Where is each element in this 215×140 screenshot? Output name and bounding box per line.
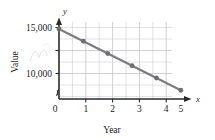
x-axis-title: Year bbox=[103, 125, 121, 135]
x-tick-label-0: 0 bbox=[53, 104, 58, 114]
y-axis-title: Value bbox=[10, 51, 20, 73]
data-point bbox=[130, 63, 135, 68]
x-tick-label-5: 5 bbox=[178, 104, 183, 114]
data-series-value bbox=[57, 27, 184, 93]
data-point bbox=[154, 76, 159, 81]
data-point bbox=[57, 27, 62, 32]
y-axis-variable-label: y bbox=[62, 6, 67, 16]
x-axis-variable-label: x bbox=[195, 94, 200, 104]
y-tick-label-10000: 10,000 bbox=[26, 69, 52, 79]
depreciation-line-chart: 15,000 10,000 0 1 2 3 4 y x Year Value 5 bbox=[0, 0, 215, 140]
data-point bbox=[178, 88, 183, 93]
data-point bbox=[105, 51, 110, 56]
scan-artifact bbox=[30, 44, 50, 70]
data-point bbox=[81, 39, 86, 44]
chart-svg: 15,000 10,000 0 1 2 3 4 y x Year Value 5 bbox=[0, 0, 215, 140]
x-tick-label-3: 3 bbox=[137, 104, 142, 114]
x-tick-label-2: 2 bbox=[110, 104, 115, 114]
chart-gridlines bbox=[59, 22, 172, 99]
x-axis bbox=[59, 96, 192, 103]
x-tick-label-1: 1 bbox=[83, 104, 88, 114]
y-tick-label-15000: 15,000 bbox=[26, 23, 52, 33]
x-tick-label-4: 4 bbox=[164, 104, 169, 114]
